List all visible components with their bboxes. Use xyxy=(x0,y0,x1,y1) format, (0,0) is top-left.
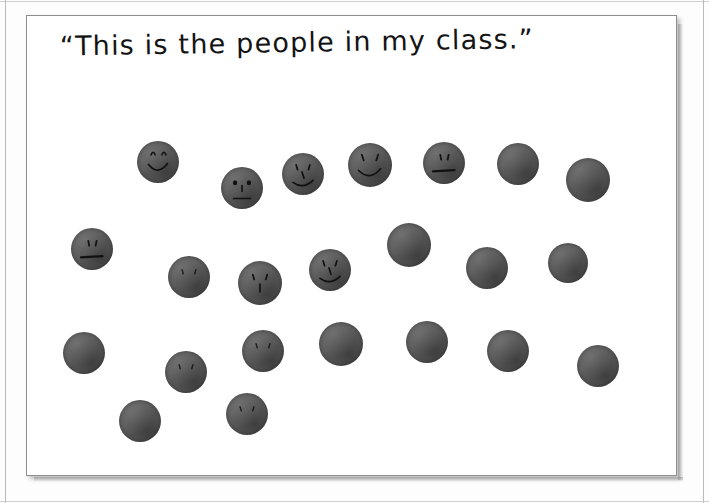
scan-background: “This is the people in my class.” xyxy=(0,0,709,503)
paper-shadow-bottom xyxy=(34,477,683,482)
felt-dot xyxy=(487,330,529,372)
felt-dot xyxy=(566,158,610,202)
felt-dot xyxy=(387,223,431,267)
scan-bottom-edge xyxy=(0,501,709,502)
felt-dot-with-face xyxy=(309,249,351,291)
felt-dot xyxy=(466,247,508,289)
felt-dot-with-face xyxy=(226,393,268,435)
felt-dot xyxy=(319,322,363,366)
felt-dot-with-face xyxy=(348,143,392,187)
felt-dot-with-face xyxy=(423,142,465,184)
felt-dot-with-face xyxy=(71,228,113,270)
felt-dot xyxy=(406,321,448,363)
felt-dot-with-face xyxy=(137,141,179,183)
scan-right-edge xyxy=(703,0,704,503)
dot-collection xyxy=(26,15,677,476)
felt-dot-with-face xyxy=(242,330,284,372)
scan-top-edge xyxy=(0,1,709,2)
felt-dot xyxy=(577,345,619,387)
felt-dot-with-face xyxy=(165,351,207,393)
paper-shadow-right xyxy=(678,24,683,480)
felt-dot xyxy=(119,400,161,442)
felt-dot-with-face xyxy=(221,167,263,209)
felt-dot-with-face xyxy=(238,261,282,305)
felt-dot-with-face xyxy=(282,153,324,195)
scan-left-edge xyxy=(5,0,6,503)
felt-dot xyxy=(497,143,539,185)
felt-dot xyxy=(548,243,588,283)
felt-dot xyxy=(63,332,105,374)
felt-dot-with-face xyxy=(168,256,210,298)
